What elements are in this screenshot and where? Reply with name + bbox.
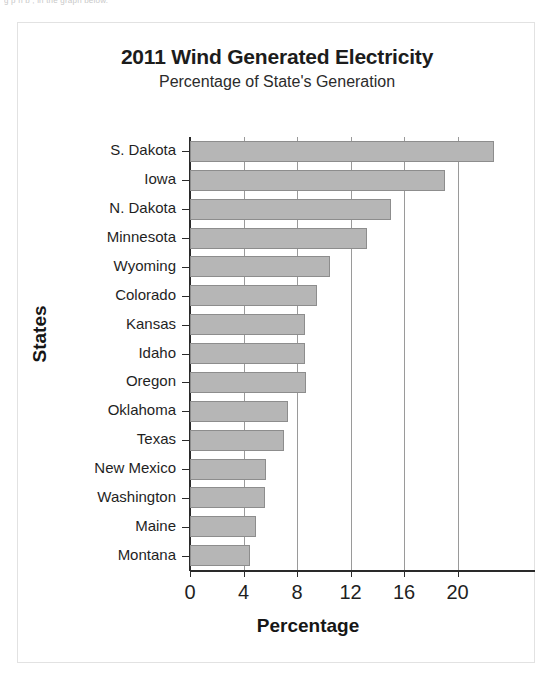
y-tick-mark xyxy=(182,180,189,181)
y-tick-mark xyxy=(182,354,189,355)
y-tick-mark xyxy=(182,209,189,210)
plot-area xyxy=(190,137,511,570)
x-axis-label-0: 0 xyxy=(170,581,210,604)
y-axis-label-wyoming: Wyoming xyxy=(18,257,176,274)
y-axis-label-texas: Texas xyxy=(18,430,176,447)
x-axis-line xyxy=(190,570,535,572)
y-axis-label-s-dakota: S. Dakota xyxy=(18,141,176,158)
y-axis-label-minnesota: Minnesota xyxy=(18,228,176,245)
y-axis-label-washington: Washington xyxy=(18,488,176,505)
y-axis-label-oklahoma: Oklahoma xyxy=(18,401,176,418)
chart-subtitle: Percentage of State's Generation xyxy=(18,73,536,91)
bar-row xyxy=(190,397,511,426)
y-axis-label-montana: Montana xyxy=(18,546,176,563)
bar xyxy=(190,401,288,422)
bar-row xyxy=(190,339,511,368)
x-axis-label-16: 16 xyxy=(384,581,424,604)
bar xyxy=(190,487,265,508)
bar xyxy=(190,372,306,393)
chart-title: 2011 Wind Generated Electricity xyxy=(18,45,536,69)
bar xyxy=(190,343,305,364)
y-axis-label-iowa: Iowa xyxy=(18,170,176,187)
bar-row xyxy=(190,368,511,397)
y-tick-mark xyxy=(182,325,189,326)
bar-row xyxy=(190,195,511,224)
y-tick-mark xyxy=(182,411,189,412)
chart-figure-frame: 2011 Wind Generated Electricity Percenta… xyxy=(17,22,535,663)
bar-row xyxy=(190,252,511,281)
y-axis-label-n-dakota: N. Dakota xyxy=(18,199,176,216)
bar-row xyxy=(190,483,511,512)
bar-row xyxy=(190,541,511,570)
bar-row xyxy=(190,137,511,166)
x-axis-label-12: 12 xyxy=(331,581,371,604)
y-tick-mark xyxy=(182,469,189,470)
x-axis-label-20: 20 xyxy=(438,581,478,604)
x-tick-mark-16 xyxy=(404,570,405,577)
bar-row xyxy=(190,455,511,484)
x-tick-mark-4 xyxy=(244,570,245,577)
x-axis-label-4: 4 xyxy=(224,581,264,604)
bar xyxy=(190,141,494,162)
y-tick-mark xyxy=(182,527,189,528)
x-axis-label-8: 8 xyxy=(277,581,317,604)
y-axis-label-maine: Maine xyxy=(18,517,176,534)
bar-row xyxy=(190,426,511,455)
bar xyxy=(190,430,284,451)
bar xyxy=(190,199,391,220)
bar-row xyxy=(190,281,511,310)
bar xyxy=(190,170,445,191)
x-tick-mark-0 xyxy=(190,570,191,577)
bar-row xyxy=(190,224,511,253)
bar xyxy=(190,459,266,480)
bar xyxy=(190,256,330,277)
bar xyxy=(190,545,250,566)
y-tick-mark xyxy=(182,238,189,239)
y-tick-mark xyxy=(182,296,189,297)
y-tick-mark xyxy=(182,556,189,557)
bar-row xyxy=(190,166,511,195)
x-tick-mark-12 xyxy=(351,570,352,577)
x-axis-title: Percentage xyxy=(158,615,458,637)
x-tick-mark-20 xyxy=(458,570,459,577)
y-axis-label-new-mexico: New Mexico xyxy=(18,459,176,476)
bar xyxy=(190,228,367,249)
y-axis-title: States xyxy=(29,274,51,394)
y-tick-mark xyxy=(182,440,189,441)
y-tick-mark xyxy=(182,498,189,499)
bar xyxy=(190,516,256,537)
bar-row xyxy=(190,310,511,339)
y-tick-mark xyxy=(182,267,189,268)
bar-row xyxy=(190,512,511,541)
bar xyxy=(190,285,317,306)
y-tick-mark xyxy=(182,382,189,383)
scanned-page-text-fragment: g p n b , in the graph below. xyxy=(4,0,424,8)
y-tick-mark xyxy=(182,151,189,152)
bar xyxy=(190,314,305,335)
x-tick-mark-8 xyxy=(297,570,298,577)
